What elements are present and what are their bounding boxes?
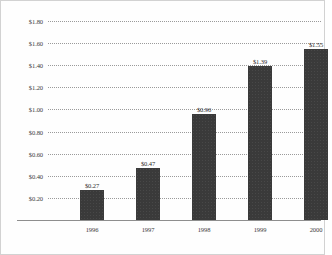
bar [136,168,160,220]
y-tick-label: $1.60 [7,40,43,47]
x-tick-label: 1999 [238,226,282,233]
bar-value-label: $0.27 [85,182,99,189]
x-axis-line [17,220,321,221]
bar-value-label: $1.55 [309,41,323,48]
bar [192,114,216,220]
x-tick-label: 1996 [70,226,114,233]
bar [248,66,272,220]
bar-group: $0.27 [80,190,104,220]
y-tick-label: $0.60 [7,150,43,157]
gridline [48,109,321,110]
x-tick-label: 1998 [182,226,226,233]
x-tick-label: 1997 [126,226,170,233]
bar-group: $0.96 [192,114,216,220]
bar-group: $1.39 [248,66,272,220]
gridline [48,132,321,133]
y-tick-label: $0.40 [7,172,43,179]
bar-value-label: $1.39 [253,58,267,65]
gridline [48,154,321,155]
gridline [48,43,321,44]
y-tick-label: $1.40 [7,62,43,69]
y-tick-label: $0.80 [7,128,43,135]
gridline [48,176,321,177]
bar-value-label: $0.47 [141,160,155,167]
gridline [48,21,321,22]
bar [80,190,104,220]
y-tick-label: $1.80 [7,18,43,25]
gridline [48,87,321,88]
bar-group: $1.55 [304,49,328,220]
x-tick-label: 2000 [294,226,332,233]
bar [304,49,328,220]
y-tick-label: $1.00 [7,106,43,113]
bar-value-label: $0.96 [197,106,211,113]
y-tick-label: $0.20 [7,194,43,201]
y-tick-label: $1.20 [7,84,43,91]
bar-group: $0.47 [136,168,160,220]
gridline [48,65,321,66]
plot-area: $0.27 $0.47 $0.96 $1.39 $1.55 [48,21,321,220]
